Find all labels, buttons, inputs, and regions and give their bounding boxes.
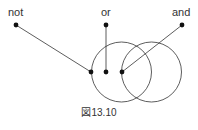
label-and: and — [172, 7, 190, 18]
and-point-dot — [120, 70, 125, 75]
or-point-dot — [104, 70, 109, 75]
not-leader-line — [16, 25, 91, 72]
and-label-dot — [180, 23, 185, 28]
or-label-dot — [104, 23, 109, 28]
not-point-dot — [89, 70, 94, 75]
and-leader-line — [122, 25, 182, 72]
not-label-dot — [14, 23, 19, 28]
label-or: or — [101, 7, 111, 18]
label-not: not — [8, 7, 23, 18]
figure-caption: 図13.10 — [0, 108, 198, 118]
